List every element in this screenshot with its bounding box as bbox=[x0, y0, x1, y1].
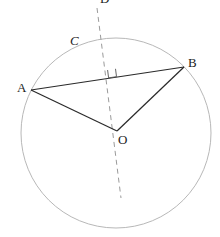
radius-oa bbox=[31, 90, 117, 131]
label-point-b: B bbox=[188, 55, 197, 70]
perpendicular-bisector bbox=[97, 8, 121, 198]
label-center-o: O bbox=[118, 132, 127, 147]
label-top: D bbox=[100, 0, 109, 6]
right-angle-marker bbox=[108, 69, 117, 78]
circle-c bbox=[21, 38, 211, 228]
radius-ob bbox=[117, 67, 184, 131]
geometry-diagram: D C A B O bbox=[0, 0, 220, 237]
label-point-a: A bbox=[17, 80, 27, 95]
label-circle-c: C bbox=[70, 33, 79, 48]
